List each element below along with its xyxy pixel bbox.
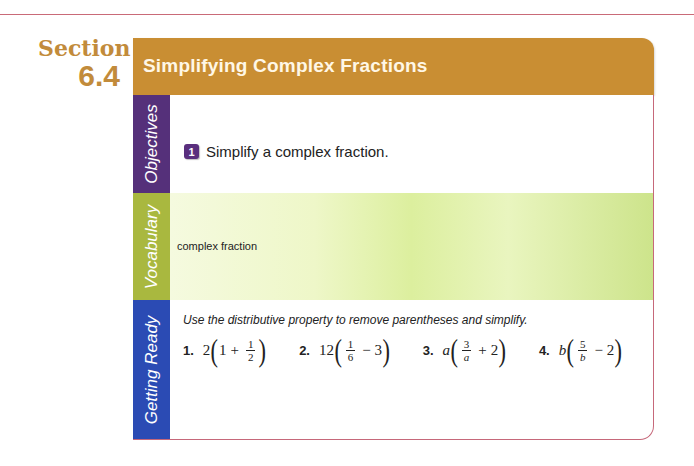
tab-vocabulary-label: Vocabulary [142,204,162,288]
fraction: 5 b [578,338,588,363]
numerator: 1 [346,338,356,351]
tab-getting-ready-label: Getting Ready [142,315,162,424]
coefficient: b [559,342,567,359]
getting-ready-instructions: Use the distributive property to remove … [183,313,528,327]
exercise-expression: a ( 3 a + 2 ) [443,334,507,366]
lead-term: 1 [219,342,227,359]
objective-text: Simplify a complex fraction. [206,143,389,160]
section-number: 6.4 [38,60,120,92]
section-box: Objectives Vocabulary Getting Ready 1 Si… [133,95,654,440]
operator: + [478,342,486,359]
left-paren: ( [335,334,342,366]
right-paren: ) [383,334,390,366]
exercise-list: 1. 2 ( 1 + 1 2 ) 2. 12 ( [183,334,655,366]
operator: − [594,342,602,359]
denominator: b [580,351,586,363]
vocabulary-term: complex fraction [177,240,257,252]
left-paren: ( [451,334,458,366]
objective-item: 1 Simplify a complex fraction. [184,143,389,160]
numerator: 3 [462,338,472,351]
section-word: Section [38,36,120,60]
right-paren: ) [615,334,622,366]
numerator: 5 [578,338,588,351]
tab-vocabulary: Vocabulary [133,193,170,300]
exercise-item: 2. 12 ( 1 6 − 3 ) [299,334,391,366]
coefficient: a [443,342,451,359]
vocabulary-row: complex fraction [170,193,653,300]
tail-term: 2 [607,342,615,359]
objectives-row: 1 Simplify a complex fraction. [170,95,653,193]
fraction: 1 2 [246,338,256,363]
coefficient: 12 [319,342,334,359]
left-paren: ( [567,334,574,366]
operator: + [231,342,239,359]
tab-objectives-label: Objectives [142,104,162,183]
page-title: Simplifying Complex Fractions [143,55,428,77]
coefficient: 2 [203,342,211,359]
denominator: 2 [248,351,254,363]
tab-objectives: Objectives [133,95,170,193]
right-paren: ) [259,334,266,366]
exercise-expression: b ( 5 b − 2 ) [559,334,623,366]
denominator: 6 [348,351,354,363]
operator: − [362,342,370,359]
fraction: 3 a [462,338,472,363]
exercise-number: 2. [299,343,310,358]
left-paren: ( [211,334,218,366]
numerator: 1 [246,338,256,351]
section-header-bar: Simplifying Complex Fractions [133,38,654,95]
objective-number-badge: 1 [184,144,199,159]
exercise-number: 4. [539,343,550,358]
top-rule [0,14,694,15]
exercise-item: 1. 2 ( 1 + 1 2 ) [183,334,267,366]
exercise-expression: 12 ( 1 6 − 3 ) [319,334,391,366]
exercise-item: 4. b ( 5 b − 2 ) [539,334,623,366]
exercise-number: 3. [423,343,434,358]
fraction: 1 6 [346,338,356,363]
denominator: a [464,351,470,363]
exercise-number: 1. [183,343,194,358]
getting-ready-row: Use the distributive property to remove … [170,300,653,439]
section-label: Section 6.4 [38,36,120,92]
exercise-item: 3. a ( 3 a + 2 ) [423,334,507,366]
exercise-expression: 2 ( 1 + 1 2 ) [203,334,267,366]
tail-term: 2 [491,342,499,359]
tail-term: 3 [375,342,383,359]
tab-getting-ready: Getting Ready [133,300,170,439]
right-paren: ) [499,334,506,366]
